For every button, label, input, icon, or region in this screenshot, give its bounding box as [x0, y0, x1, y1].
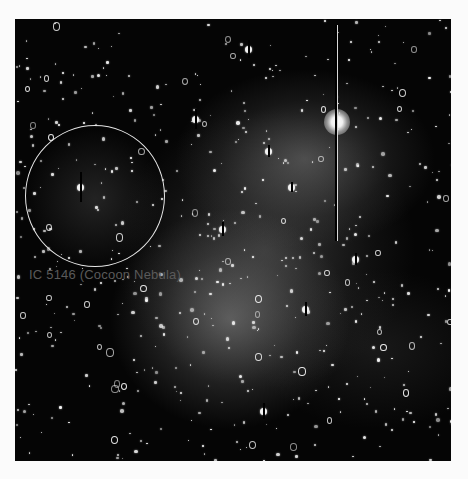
star: [394, 408, 396, 410]
star: [436, 179, 438, 181]
star: [439, 20, 441, 22]
star: [204, 313, 206, 315]
star: [236, 121, 240, 125]
star: [231, 90, 233, 92]
star: [209, 151, 212, 154]
star: [290, 443, 297, 451]
star: [355, 320, 358, 323]
star: [146, 443, 148, 445]
star: [252, 389, 254, 391]
star: [437, 288, 439, 290]
star: [19, 161, 22, 164]
star: [293, 371, 296, 374]
star: [379, 446, 381, 448]
star: [379, 326, 382, 329]
star: [80, 284, 82, 286]
star: [255, 311, 261, 318]
star: [106, 75, 108, 77]
star: [327, 417, 333, 424]
star: [213, 228, 216, 231]
star: [62, 72, 64, 74]
bright-star-bleed-line: [335, 25, 337, 241]
star: [298, 397, 301, 400]
star: [106, 348, 114, 357]
star: [407, 292, 410, 295]
star: [372, 346, 376, 350]
star: [346, 237, 349, 240]
star: [144, 369, 146, 371]
star: [286, 305, 288, 307]
star: [397, 106, 403, 113]
star: [53, 22, 61, 31]
star: [448, 143, 450, 145]
star: [238, 139, 240, 141]
star: [81, 88, 83, 90]
star: [323, 94, 325, 96]
star: [17, 409, 19, 411]
figure-caption: [36, 470, 446, 479]
star: [281, 218, 287, 225]
star: [258, 328, 260, 330]
star: [240, 43, 243, 46]
star: [275, 65, 277, 67]
star: [44, 75, 50, 82]
star: [158, 245, 161, 248]
star: [24, 166, 26, 168]
star: [359, 216, 362, 219]
star: [370, 387, 372, 389]
star: [62, 98, 64, 100]
star: [15, 369, 17, 371]
star: [66, 306, 69, 309]
star: [54, 313, 56, 315]
star: [243, 102, 245, 104]
star: [283, 162, 285, 164]
star: [121, 383, 128, 391]
star: [290, 289, 294, 293]
star: [247, 390, 249, 392]
star: [386, 195, 389, 198]
star: [344, 308, 347, 311]
star: [122, 402, 126, 406]
star: [324, 20, 326, 22]
star: [355, 21, 358, 24]
star: [197, 75, 199, 77]
star: [370, 49, 372, 51]
star: [211, 318, 213, 320]
star: [206, 399, 209, 402]
star: [262, 179, 264, 181]
star: [231, 264, 234, 267]
star: [378, 297, 380, 299]
star: [26, 67, 29, 70]
star: [242, 127, 245, 130]
star: [29, 452, 31, 454]
star: [399, 89, 407, 98]
star: [305, 56, 307, 58]
star: [106, 61, 109, 64]
star: [255, 295, 263, 304]
star: [154, 381, 157, 384]
star: [355, 126, 358, 129]
star: [100, 282, 102, 284]
star: [165, 84, 167, 86]
star: [68, 422, 70, 424]
star: [225, 258, 231, 265]
star: [26, 58, 28, 60]
star: [195, 277, 199, 281]
star: [348, 59, 350, 61]
star: [420, 336, 422, 338]
star: [159, 292, 163, 296]
star: [179, 312, 182, 315]
star: [245, 131, 247, 133]
star: [391, 429, 393, 431]
star: [26, 40, 28, 42]
star: [204, 453, 206, 455]
star: [448, 262, 451, 266]
star: [345, 279, 351, 286]
star: [379, 117, 383, 121]
star: [213, 237, 216, 240]
star: [97, 74, 101, 78]
star: [226, 337, 230, 341]
star: [47, 332, 53, 339]
star: [89, 385, 91, 387]
star: [160, 129, 162, 131]
